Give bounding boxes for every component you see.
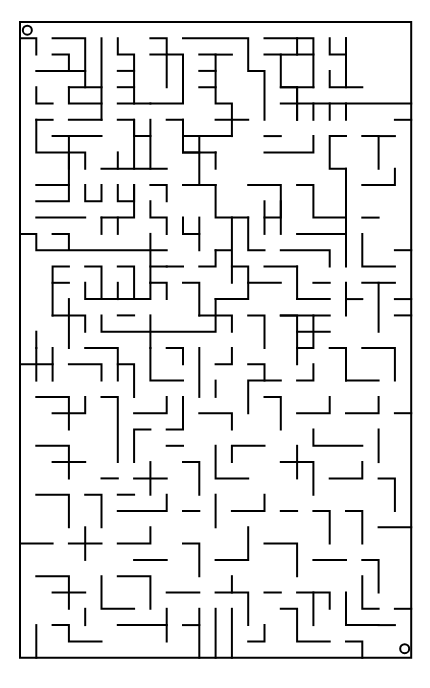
- maze-wall: [379, 478, 395, 511]
- maze-wall: [167, 348, 183, 364]
- maze-wall: [232, 495, 265, 511]
- maze-wall: [330, 348, 346, 381]
- maze-wall: [118, 495, 167, 511]
- maze-wall: [362, 560, 378, 593]
- maze-wall: [150, 348, 183, 381]
- maze-wall: [36, 495, 69, 528]
- maze-wall: [232, 446, 265, 462]
- circle-start-icon[interactable]: [23, 26, 32, 35]
- maze-wall: [362, 348, 395, 381]
- maze-walls: [20, 22, 411, 658]
- maze-wall: [118, 527, 151, 543]
- maze-wall: [118, 267, 134, 300]
- maze-wall: [118, 576, 151, 609]
- maze-wall: [167, 397, 183, 430]
- maze-wall: [330, 38, 346, 54]
- maze-wall: [248, 625, 264, 641]
- maze-wall: [118, 364, 134, 397]
- maze-wall: [183, 462, 199, 495]
- maze-wall: [102, 397, 118, 462]
- maze-wall: [216, 185, 249, 218]
- maze-wall: [134, 397, 167, 413]
- maze-wall: [248, 364, 264, 380]
- maze-wall: [199, 250, 215, 266]
- maze-wall: [297, 38, 313, 87]
- maze-wall: [20, 38, 36, 54]
- maze-wall: [330, 71, 346, 87]
- maze-wall: [265, 397, 281, 430]
- maze-wall: [297, 267, 313, 300]
- maze-wall: [183, 544, 199, 577]
- maze-wall: [183, 283, 199, 316]
- maze-wall: [20, 234, 167, 250]
- maze-wall: [313, 511, 329, 544]
- maze-wall: [216, 348, 232, 364]
- maze-wall: [313, 430, 362, 446]
- maze-wall: [297, 169, 346, 218]
- maze-wall: [346, 511, 362, 544]
- maze-wall: [183, 234, 199, 250]
- maze-wall: [36, 152, 69, 201]
- maze-wall: [102, 576, 135, 609]
- maze-wall: [134, 430, 150, 463]
- maze-board: [0, 0, 430, 688]
- maze-wall: [36, 87, 101, 103]
- maze-wall: [346, 641, 362, 657]
- maze-wall: [362, 576, 378, 609]
- maze-wall: [69, 364, 102, 380]
- maze-wall: [53, 55, 69, 71]
- maze-wall: [297, 397, 330, 413]
- maze-wall: [265, 136, 314, 152]
- maze-wall: [346, 38, 362, 87]
- maze-wall: [346, 397, 379, 413]
- maze-wall: [248, 315, 264, 348]
- maze-wall: [330, 462, 363, 478]
- maze-wall: [53, 625, 102, 641]
- maze-wall: [150, 55, 166, 88]
- maze-wall: [150, 283, 166, 299]
- maze-wall: [216, 218, 232, 283]
- maze-wall: [53, 267, 69, 316]
- maze-wall: [362, 234, 395, 267]
- maze-wall: [281, 315, 297, 364]
- maze-wall: [265, 544, 298, 577]
- maze-wall: [330, 136, 346, 169]
- maze-wall: [281, 250, 330, 266]
- maze-wall: [85, 185, 101, 201]
- maze-wall: [362, 136, 378, 169]
- maze-wall: [36, 120, 85, 169]
- maze-wall: [281, 609, 330, 642]
- maze-wall: [150, 185, 166, 234]
- maze-wall: [85, 267, 101, 300]
- maze-wall: [199, 87, 232, 120]
- maze-wall: [216, 527, 249, 560]
- maze-wall: [297, 364, 313, 380]
- maze-wall: [118, 625, 167, 641]
- circle-end-icon[interactable]: [400, 644, 409, 653]
- maze-wall: [85, 495, 101, 528]
- maze-wall: [118, 185, 134, 201]
- maze-wall: [20, 22, 411, 658]
- maze-wall: [362, 283, 378, 332]
- maze-wall: [199, 413, 232, 429]
- maze-wall: [183, 38, 265, 120]
- maze-wall: [362, 169, 395, 185]
- maze-wall: [265, 38, 314, 54]
